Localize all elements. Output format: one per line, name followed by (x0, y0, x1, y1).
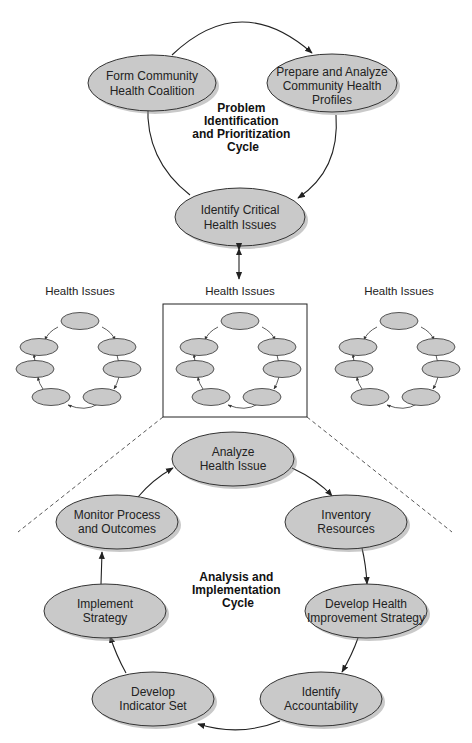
node-implement-strategy[interactable]: ImplementStrategy (44, 584, 169, 641)
svg-text:Identify CriticalHealth Issues: Identify CriticalHealth Issues (201, 203, 280, 232)
svg-text:InventoryResources: InventoryResources (317, 508, 374, 536)
node-form-coalition[interactable]: Form CommunityHealth Coalition (88, 55, 219, 114)
arrow-identify-to-form (148, 104, 190, 195)
top-cycle-title: Problem Identification and Prioritizatio… (192, 101, 293, 154)
health-issues-row: Health Issues Health Issues Health Issue… (16, 285, 460, 417)
node-inventory-resources[interactable]: InventoryResources (285, 495, 410, 552)
community-health-diagram: Form CommunityHealth Coalition Prepare a… (0, 0, 472, 743)
svg-text:Form CommunityHealth Coalition: Form CommunityHealth Coalition (106, 69, 198, 98)
svg-text:Monitor Processand Outcomes: Monitor Processand Outcomes (74, 508, 161, 536)
node-prepare-profiles[interactable]: Prepare and AnalyzeCommunity HealthProfi… (267, 54, 400, 115)
node-identify-accountability[interactable]: IdentifyAccountability (260, 672, 385, 729)
node-monitor-process[interactable]: Monitor Processand Outcomes (56, 495, 181, 552)
mini-cycle-left[interactable] (16, 313, 141, 409)
health-issues-label-left: Health Issues (45, 285, 115, 297)
mini-cycle-right[interactable] (335, 313, 460, 409)
problem-identification-cycle: Form CommunityHealth Coalition Prepare a… (88, 22, 400, 249)
node-analyze-issue[interactable]: AnalyzeHealth Issue (172, 432, 297, 489)
svg-text:ImplementStrategy: ImplementStrategy (77, 597, 134, 625)
health-issues-label-right: Health Issues (364, 285, 434, 297)
bottom-cycle-title: Analysis and Implementation Cycle (192, 570, 284, 610)
analysis-implementation-cycle: AnalyzeHealth Issue InventoryResources D… (44, 432, 430, 730)
node-develop-indicator[interactable]: DevelopIndicator Set (92, 672, 217, 729)
arrow-form-to-prepare (172, 22, 312, 55)
node-develop-strategy[interactable]: Develop HealthImprovement Strategy (305, 584, 430, 641)
health-issues-label-center: Health Issues (205, 285, 275, 297)
arrow-prepare-to-identify (298, 115, 336, 198)
node-identify-issues[interactable]: Identify CriticalHealth Issues (175, 188, 308, 249)
mini-cycle-center[interactable] (176, 313, 301, 409)
